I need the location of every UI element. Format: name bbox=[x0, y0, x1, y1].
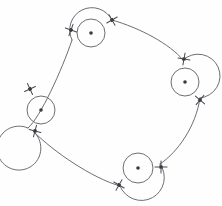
node-top-center-dot bbox=[89, 31, 93, 35]
node-left-center-dot bbox=[39, 108, 43, 112]
diagram-canvas bbox=[0, 0, 222, 206]
marker-bottom-left-icon bbox=[111, 177, 127, 193]
node-loop-layer bbox=[0, 8, 220, 201]
edge-left-to-top bbox=[28, 40, 72, 128]
edge-bottom-to-left bbox=[34, 132, 120, 186]
marker-right-bottom-icon bbox=[192, 92, 209, 109]
node-bottom-center-dot bbox=[136, 166, 140, 170]
marker-top-right-icon bbox=[104, 12, 120, 28]
node-bottom[interactable] bbox=[123, 153, 153, 183]
marker-right-top-icon bbox=[177, 52, 191, 66]
loop-arc-right bbox=[183, 54, 220, 98]
node-layer bbox=[27, 19, 199, 183]
marker-left-top-icon bbox=[22, 81, 38, 97]
node-top[interactable] bbox=[77, 19, 105, 47]
direction-marker-layer bbox=[22, 12, 208, 193]
cyclic-loop-diagram bbox=[0, 0, 222, 206]
edge-top-to-right bbox=[112, 20, 183, 60]
node-right[interactable] bbox=[171, 68, 199, 96]
node-left[interactable] bbox=[27, 96, 55, 124]
node-right-center-dot bbox=[183, 80, 187, 84]
marker-bottom-right-icon bbox=[155, 161, 167, 173]
edge-layer bbox=[28, 20, 200, 186]
marker-top-left-icon bbox=[63, 22, 78, 37]
edge-right-to-bottom bbox=[160, 98, 200, 164]
loop-arc-top bbox=[70, 8, 112, 40]
